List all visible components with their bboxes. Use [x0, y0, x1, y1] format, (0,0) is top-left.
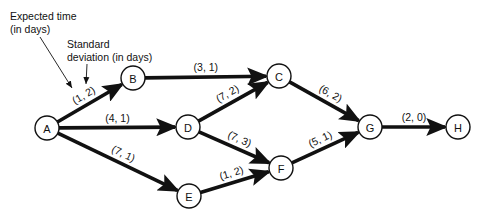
node-label: E	[185, 191, 192, 203]
node-f: F	[269, 156, 293, 180]
nodes: ABCDEFGH	[35, 64, 470, 208]
edge-label-b-c: (3, 1)	[194, 61, 219, 73]
std-dev-pointer-arrow-icon	[86, 64, 87, 84]
edge-a-d	[59, 127, 175, 128]
std-dev-label-line2: deviation (in days)	[67, 51, 152, 63]
expected-time-label-line2: (in days)	[10, 23, 50, 35]
edge-a-e	[58, 133, 177, 190]
node-a: A	[35, 116, 59, 140]
edge-b-c	[145, 76, 266, 78]
pert-network-diagram: Expected time (in days) Standard deviati…	[0, 0, 495, 219]
node-d: D	[176, 115, 200, 139]
arrow-icon	[59, 127, 175, 128]
node-h: H	[446, 115, 470, 139]
node-b: B	[121, 66, 145, 90]
arrow-icon	[145, 76, 266, 78]
edges	[57, 76, 445, 192]
arrow-icon	[58, 133, 177, 190]
node-c: C	[267, 64, 291, 88]
node-label: F	[278, 163, 285, 175]
edge-label-g-h: (2, 0)	[402, 111, 427, 123]
node-label: H	[454, 122, 462, 134]
node-g: G	[358, 115, 382, 139]
std-dev-label-line1: Standard	[67, 38, 110, 50]
node-label: D	[184, 122, 192, 134]
node-label: B	[129, 73, 136, 85]
expected-time-label-line1: Expected time	[10, 10, 77, 22]
edge-label-a-d: (4, 1)	[105, 112, 130, 124]
node-label: C	[275, 71, 283, 83]
node-e: E	[177, 184, 201, 208]
node-label: G	[366, 122, 375, 134]
node-label: A	[43, 123, 51, 135]
